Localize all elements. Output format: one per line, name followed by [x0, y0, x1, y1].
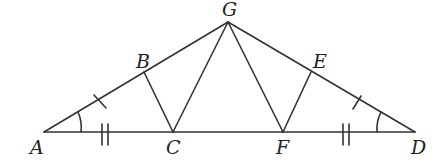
segment-BC	[144, 72, 173, 132]
point-label-F: F	[276, 138, 289, 157]
point-label-E: E	[313, 52, 327, 71]
diagram-lines	[0, 0, 447, 164]
point-label-D: D	[411, 138, 426, 157]
point-label-G: G	[222, 0, 237, 19]
angle-arc-A	[78, 112, 81, 132]
angle-arc-D	[377, 112, 381, 132]
geometry-diagram: G B E A C F D	[0, 0, 447, 164]
segment-EF	[283, 72, 311, 132]
point-label-C: C	[166, 138, 181, 157]
point-label-B: B	[136, 52, 150, 71]
point-label-A: A	[30, 138, 44, 157]
